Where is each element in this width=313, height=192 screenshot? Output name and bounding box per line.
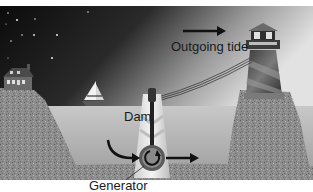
tidal-power-illustration [0,0,313,192]
dam-label: Dam [124,110,151,123]
outgoing-tide-label: Outgoing tide [171,40,248,53]
generator-label: Generator [89,179,148,192]
caption-area [0,180,313,192]
